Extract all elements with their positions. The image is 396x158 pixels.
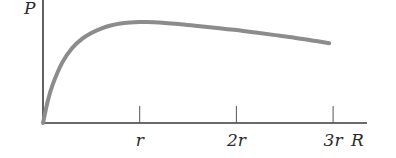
x-tick-label: 3r xyxy=(324,130,344,150)
x-tick-label: 2r xyxy=(226,130,247,150)
y-axis-label: P xyxy=(23,0,36,18)
x-ticks xyxy=(140,106,333,123)
data-curve xyxy=(43,22,329,123)
x-tick-labels: r2r3r xyxy=(136,130,344,150)
x-axis-label: R xyxy=(350,130,364,150)
chart: P R r2r3r xyxy=(0,0,396,158)
x-tick-label: r xyxy=(136,130,145,150)
